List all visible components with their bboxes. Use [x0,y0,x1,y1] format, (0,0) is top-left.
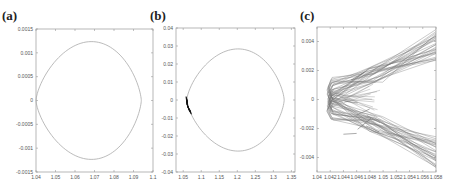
trajectory-strand [328,110,436,167]
figure: (a)1.041.051.061.071.081.091.10.00150.00… [0,0,455,185]
x-tick-label: 1.05 [378,174,388,180]
y-tick-label: 0.001 [20,50,33,56]
x-tick-label: 1.044 [337,174,350,180]
trajectory-strand [328,99,436,154]
x-tick-label: 1.09 [129,174,139,180]
trajectory-strand [328,96,436,152]
orbit-curve [36,42,141,160]
trajectory-strand [328,52,436,106]
y-tick-label: 0.002 [301,67,314,73]
panel-a: (a)1.041.051.061.071.081.091.10.00150.00… [2,8,157,180]
x-tick-label: 1.048 [364,174,377,180]
y-tick-label: 0.0005 [18,73,34,79]
x-tick-label: 1.042 [324,174,337,180]
x-tick-label: 1.35 [287,174,297,180]
panel-c: (c)1.041.0421.0441.0461.0481.051.0521.05… [300,8,443,180]
x-tick-label: 1.052 [390,174,403,180]
y-tick-label: -0.002 [300,125,314,131]
trajectory-strand [328,98,436,152]
y-tick-label: -0.04 [162,169,174,175]
x-tick-label: 1.054 [403,174,416,180]
trajectory-strand [328,45,436,99]
trajectory-strand [330,37,436,92]
y-tick-label: -0.001 [19,145,33,151]
x-tick-label: 1.05 [51,174,61,180]
panel-label: (b) [150,8,166,23]
trajectory-strand [329,103,436,161]
x-tick-label: 1.056 [417,174,430,180]
trajectory-strand [329,43,436,100]
y-tick-label: -0.02 [162,133,174,139]
y-tick-label: 0.004 [301,38,314,44]
panel-label: (c) [300,8,314,23]
y-tick-label: -0.03 [162,151,174,157]
x-tick-label: 1.058 [430,174,443,180]
orbit-curve [187,49,284,151]
x-tick-label: 1.06 [70,174,80,180]
x-tick-label: 1.3 [270,174,277,180]
y-tick-label: -0.0015 [16,169,33,175]
y-tick-label: 0 [170,97,173,103]
x-tick-label: 1.046 [350,174,363,180]
x-tick-label: 1.1 [150,174,157,180]
axes-frame [176,28,295,172]
panel-b: (b)1.051.11.151.21.251.31.350.040.030.02… [150,8,296,180]
y-tick-label: 0.03 [163,43,173,49]
x-tick-label: 1.1 [198,174,205,180]
trajectory-strand [328,34,436,87]
x-tick-label: 1.07 [90,174,100,180]
y-tick-label: 0.01 [163,79,173,85]
x-tick-label: 1.2 [234,174,241,180]
trajectory-stub [343,133,356,134]
x-tick-label: 1.04 [31,174,41,180]
y-tick-label: 0 [311,96,314,102]
y-tick-label: -0.01 [162,115,174,121]
trajectory-strand [328,86,436,136]
y-tick-label: -0.004 [300,154,314,160]
y-tick-label: 0.0015 [18,26,34,32]
y-tick-label: 0.04 [163,25,173,31]
x-tick-label: 1.05 [178,174,188,180]
axes-frame [36,29,153,172]
y-tick-label: 0 [30,97,33,103]
x-tick-label: 1.15 [214,174,224,180]
x-tick-label: 1.08 [109,174,119,180]
panel-label: (a) [2,8,17,23]
x-tick-label: 1.04 [312,174,322,180]
x-tick-label: 1.25 [250,174,260,180]
y-tick-label: -0.0005 [16,121,33,127]
y-tick-label: 0.02 [163,61,173,67]
